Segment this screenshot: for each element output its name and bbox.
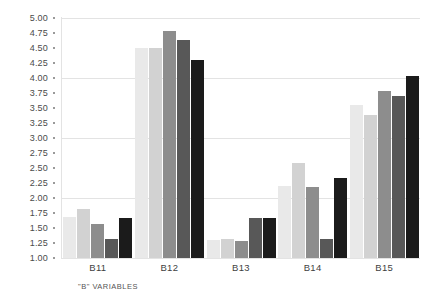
x-axis-tick-label: B15 — [375, 262, 393, 273]
bar — [364, 115, 377, 258]
bar — [191, 60, 204, 258]
bar-group — [207, 18, 276, 258]
y-axis-tick-mark — [53, 182, 55, 184]
x-axis-tick-label: B14 — [304, 262, 322, 273]
y-axis-tick-mark — [53, 107, 55, 109]
y-axis-tick-mark — [53, 152, 55, 154]
y-axis-tick-mark — [53, 62, 55, 64]
x-axis-title: "B" VARIABLES — [78, 282, 138, 291]
bar — [320, 239, 333, 258]
bar — [119, 218, 132, 258]
gridline — [62, 258, 420, 259]
bar — [177, 40, 190, 258]
bar — [163, 31, 176, 258]
plot-area — [62, 18, 420, 258]
bar — [91, 224, 104, 258]
y-axis-tick-mark — [53, 242, 55, 244]
bar — [378, 91, 391, 258]
y-axis-tick-label: 4.50 — [30, 43, 48, 53]
y-axis-tick-label: 1.00 — [30, 253, 48, 263]
bar-group — [135, 18, 204, 258]
y-axis-tick-label: 3.00 — [30, 133, 48, 143]
y-axis-tick-label: 3.50 — [30, 103, 48, 113]
x-axis-tick-label: B12 — [160, 262, 178, 273]
bar — [207, 240, 220, 258]
y-axis-tick-label: 2.75 — [30, 148, 48, 158]
y-axis-labels: 5.004.754.504.254.003.753.503.253.002.75… — [0, 0, 62, 302]
y-axis-tick-label: 2.00 — [30, 193, 48, 203]
y-axis-tick-label: 5.00 — [30, 13, 48, 23]
bar — [278, 186, 291, 258]
bar — [392, 96, 405, 258]
bar — [135, 48, 148, 258]
y-axis-tick-mark — [53, 17, 55, 19]
x-axis-labels: B11B12B13B14B15 — [62, 262, 420, 278]
bar — [350, 105, 363, 258]
bar — [105, 239, 118, 258]
bar — [334, 178, 347, 258]
y-axis-tick-mark — [53, 227, 55, 229]
bar — [77, 209, 90, 258]
y-axis-tick-label: 2.25 — [30, 178, 48, 188]
bar — [263, 218, 276, 258]
y-axis-tick-mark — [53, 257, 55, 259]
y-axis-tick-mark — [53, 122, 55, 124]
y-axis-tick-label: 1.50 — [30, 223, 48, 233]
bar-chart: 5.004.754.504.254.003.753.503.253.002.75… — [0, 0, 434, 302]
y-axis-tick-mark — [53, 197, 55, 199]
y-axis-tick-label: 4.00 — [30, 73, 48, 83]
bar — [406, 76, 419, 258]
bar-group — [350, 18, 419, 258]
y-axis-tick-label: 1.25 — [30, 238, 48, 248]
bar-group — [278, 18, 347, 258]
y-axis-tick-label: 3.25 — [30, 118, 48, 128]
bar-group — [63, 18, 132, 258]
y-axis-tick-mark — [53, 47, 55, 49]
x-axis-tick-label: B13 — [232, 262, 250, 273]
bar — [292, 163, 305, 258]
bar — [149, 48, 162, 258]
bar — [306, 187, 319, 258]
bar — [235, 241, 248, 258]
y-axis-tick-label: 4.75 — [30, 28, 48, 38]
y-axis-tick-mark — [53, 212, 55, 214]
y-axis-tick-mark — [53, 92, 55, 94]
y-axis-tick-label: 3.75 — [30, 88, 48, 98]
y-axis-tick-label: 2.50 — [30, 163, 48, 173]
x-axis-tick-label: B11 — [89, 262, 106, 273]
y-axis-tick-mark — [53, 167, 55, 169]
bar — [249, 218, 262, 258]
y-axis-tick-mark — [53, 137, 55, 139]
y-axis-tick-label: 4.25 — [30, 58, 48, 68]
y-axis-tick-label: 1.75 — [30, 208, 48, 218]
bar — [221, 239, 234, 258]
bar — [63, 217, 76, 258]
y-axis-tick-mark — [53, 32, 55, 34]
y-axis-tick-mark — [53, 77, 55, 79]
